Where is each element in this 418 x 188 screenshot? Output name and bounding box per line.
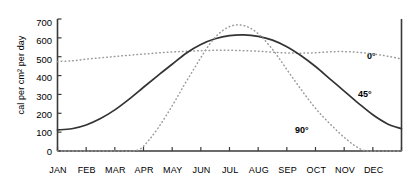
chart-figure: cal per cm² per day 700 600 500 400 300 … <box>0 0 418 188</box>
series-line-0deg <box>58 50 402 61</box>
axis-lines <box>58 19 403 151</box>
chart-plot-area <box>0 0 418 188</box>
series-line-90deg <box>58 25 402 151</box>
data-series-group <box>58 25 402 151</box>
series-line-45deg <box>58 35 402 130</box>
